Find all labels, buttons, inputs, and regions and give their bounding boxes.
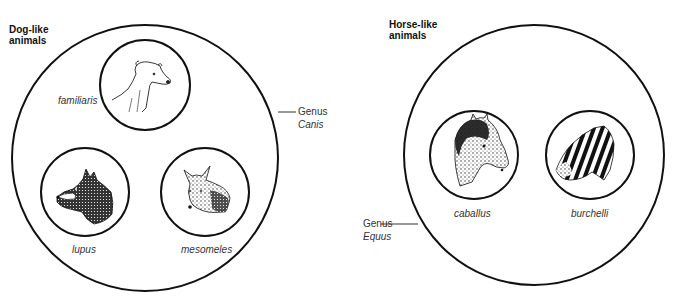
species-label-lupus: lupus [72, 244, 96, 255]
group-title-line1: Horse-like [389, 19, 437, 30]
genus-name-equus: Equus [363, 231, 392, 244]
group-title-line1: Dog-like [9, 24, 48, 35]
genus-label-canis: Genus Canis [298, 106, 327, 131]
species-circle-mesomeles [161, 148, 249, 236]
species-circle-burchelli [546, 111, 634, 199]
group-title-dog-like: Dog-like animals [9, 24, 48, 46]
species-circle-lupus [41, 148, 129, 236]
species-label-familiaris: familiaris [58, 95, 97, 106]
species-label-caballus: caballus [454, 208, 491, 219]
species-circle-familiaris [100, 40, 190, 130]
taxonomy-diagram [0, 0, 674, 305]
group-title-line2: animals [9, 35, 46, 46]
genus-label-equus: Genus Equus [363, 218, 392, 243]
genus-label-text: Genus [363, 218, 392, 229]
species-circle-caballus [430, 111, 518, 199]
group-title-horse-like: Horse-like animals [389, 19, 437, 41]
species-label-mesomeles: mesomeles [181, 244, 232, 255]
group-title-line2: animals [389, 30, 426, 41]
genus-name-canis: Canis [298, 119, 327, 132]
species-label-burchelli: burchelli [571, 208, 608, 219]
genus-label-text: Genus [298, 106, 327, 117]
